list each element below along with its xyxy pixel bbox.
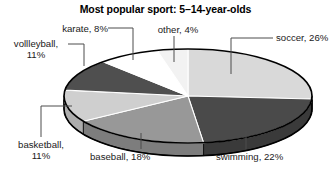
slice-label-baseball-line1: baseball, 18% <box>90 151 150 162</box>
slice-label-other: other, 4% <box>140 24 216 35</box>
pie-slice-soccer <box>188 49 312 99</box>
slice-label-karate: karate, 8% <box>26 23 108 34</box>
slice-label-basketball: basketball, 11% <box>3 139 79 161</box>
slice-label-soccer-line1: soccer, 26% <box>276 32 328 43</box>
leader-line-volleyball <box>68 44 84 66</box>
slice-label-baseball: baseball, 18% <box>90 151 150 162</box>
slice-label-volleyball: vollleyball, 11% <box>6 38 66 60</box>
slice-label-other-line1: other, 4% <box>140 24 216 35</box>
slice-label-volleyball-line2: 11% <box>6 49 66 60</box>
slice-label-swimming-line1: swimming, 22% <box>216 151 283 162</box>
slice-label-karate-line1: karate, 8% <box>26 23 108 34</box>
slice-label-volleyball-line1: vollleyball, <box>6 38 66 49</box>
slice-label-basketball-line1: basketball, <box>3 139 79 150</box>
pie-chart-figure: Most popular sport: 5–14-year-olds socce… <box>0 0 331 178</box>
slice-label-soccer: soccer, 26% <box>276 32 328 43</box>
slice-label-basketball-line2: 11% <box>3 150 79 161</box>
pie-slice-swimming <box>188 96 312 143</box>
slice-label-swimming: swimming, 22% <box>216 151 283 162</box>
